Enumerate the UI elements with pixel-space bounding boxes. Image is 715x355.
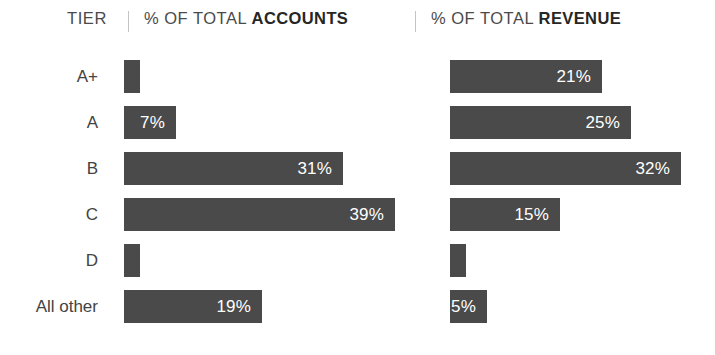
bar-revenue-value: 5% bbox=[451, 297, 487, 317]
header-revenue-label: % OF TOTAL REVENUE bbox=[431, 9, 621, 28]
chart-rows: A+ 21% A 7% 25% B 31% 32% bbox=[0, 60, 715, 336]
bar-revenue: 15% bbox=[450, 198, 560, 231]
tier-distribution-chart: TIER % OF TOTAL ACCOUNTS % OF TOTAL REVE… bbox=[0, 0, 715, 355]
bar-revenue-value: 15% bbox=[514, 205, 560, 225]
row-label-tier: A+ bbox=[0, 60, 112, 93]
header-accounts-strong: ACCOUNTS bbox=[252, 9, 349, 27]
bar-accounts bbox=[124, 244, 140, 277]
bar-accounts: 19% bbox=[124, 290, 262, 323]
bar-revenue bbox=[450, 244, 466, 277]
table-row: A+ 21% bbox=[0, 60, 715, 106]
header-divider-1 bbox=[128, 11, 129, 32]
header-revenue-prefix: % OF TOTAL bbox=[431, 9, 539, 27]
header-accounts-label: % OF TOTAL ACCOUNTS bbox=[144, 9, 348, 28]
bar-revenue: 21% bbox=[450, 60, 602, 93]
bar-revenue: 32% bbox=[450, 152, 681, 185]
row-label-tier: A bbox=[0, 106, 112, 139]
bar-accounts-value: 7% bbox=[140, 113, 176, 133]
header-revenue-strong: REVENUE bbox=[539, 9, 622, 27]
row-label-tier: D bbox=[0, 244, 112, 277]
table-row: D bbox=[0, 244, 715, 290]
header-divider-2 bbox=[415, 11, 416, 32]
bar-revenue-value: 25% bbox=[585, 113, 631, 133]
bar-accounts-value: 39% bbox=[349, 205, 395, 225]
table-row: All other 19% 5% bbox=[0, 290, 715, 336]
header-accounts-prefix: % OF TOTAL bbox=[144, 9, 252, 27]
bar-accounts: 39% bbox=[124, 198, 395, 231]
row-label-tier: All other bbox=[0, 290, 112, 323]
table-row: C 39% 15% bbox=[0, 198, 715, 244]
bar-accounts-value: 31% bbox=[297, 159, 343, 179]
bar-revenue-value: 32% bbox=[635, 159, 681, 179]
table-row: B 31% 32% bbox=[0, 152, 715, 198]
bar-accounts: 31% bbox=[124, 152, 343, 185]
bar-accounts bbox=[124, 60, 140, 93]
row-label-tier: B bbox=[0, 152, 112, 185]
bar-revenue-value: 21% bbox=[556, 67, 602, 87]
row-label-tier: C bbox=[0, 198, 112, 231]
bar-revenue: 25% bbox=[450, 106, 631, 139]
bar-accounts: 7% bbox=[124, 106, 176, 139]
bar-revenue: 5% bbox=[450, 290, 487, 323]
header-tier-label: TIER bbox=[54, 9, 120, 28]
chart-header: TIER % OF TOTAL ACCOUNTS % OF TOTAL REVE… bbox=[0, 9, 715, 35]
table-row: A 7% 25% bbox=[0, 106, 715, 152]
bar-accounts-value: 19% bbox=[216, 297, 262, 317]
